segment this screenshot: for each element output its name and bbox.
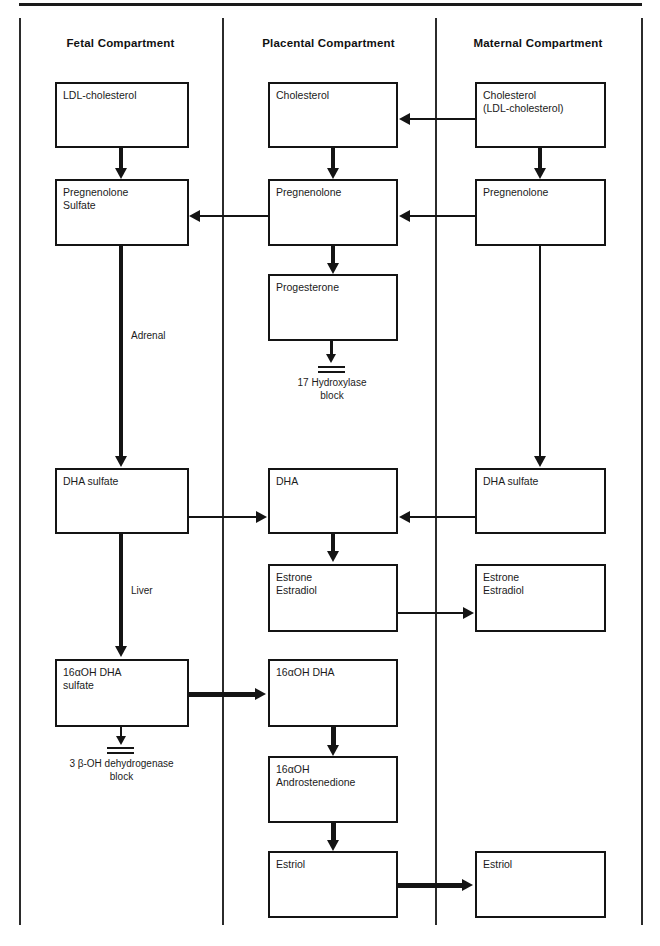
frame-left-border xyxy=(19,18,21,925)
node-placental-progesterone[interactable]: Progesterone xyxy=(268,274,398,341)
arrowhead-maternal-to-placental-dha xyxy=(399,511,410,523)
node-placental-pregnenolone[interactable]: Pregnenolone xyxy=(268,179,398,246)
node-placental-dha[interactable]: DHA xyxy=(268,468,398,534)
arrowhead-fetal-to-placental-dha xyxy=(256,511,267,523)
arrowhead-maternal-to-placental-cholesterol xyxy=(399,113,410,125)
arrowhead-placental-to-fetal-pregnenolone-sulfate xyxy=(189,210,200,222)
edge-label-adrenal: Adrenal xyxy=(131,330,165,341)
block-bar-hydroxylase-upper xyxy=(318,366,345,368)
arrowhead-maternal-to-placental-pregnenolone xyxy=(399,210,410,222)
connector-maternal-to-placental-cholesterol xyxy=(410,118,475,120)
node-placental-16aoh-dha[interactable]: 16αOH DHA xyxy=(268,659,398,727)
arrowhead-maternal-pregnenolone-to-dha-sulfate xyxy=(534,456,546,467)
connector-placental-to-maternal-estrone-estradiol xyxy=(398,612,464,614)
top-rule xyxy=(19,3,642,6)
connector-fetal-to-placental-16aoh-dha xyxy=(189,692,256,697)
arrowhead-placental-16aoh-dha-to-androstenedione xyxy=(327,745,339,756)
edge-label-liver: Liver xyxy=(131,585,153,596)
arrowhead-placental-to-maternal-estriol xyxy=(462,879,473,891)
compartment-divider-placental-maternal xyxy=(435,18,437,925)
arrowhead-placental-androstenedione-to-estriol xyxy=(327,840,339,851)
arrowhead-placental-dha-to-estrone-estradiol xyxy=(327,551,339,562)
arrowhead-placental-hydroxylase-block xyxy=(326,354,336,363)
arrowhead-fetal-dha-sulfate-to-16aoh-dha-sulfate xyxy=(115,646,127,657)
node-maternal-estrone-estradiol[interactable]: Estrone Estradiol xyxy=(475,564,606,632)
connector-fetal-dha-sulfate-to-16aoh-dha-sulfate xyxy=(119,534,123,648)
connector-fetal-to-placental-dha xyxy=(189,516,257,518)
node-maternal-pregnenolone[interactable]: Pregnenolone xyxy=(475,179,606,246)
connector-placental-to-maternal-estriol xyxy=(398,883,463,888)
connector-placental-to-fetal-pregnenolone-sulfate xyxy=(200,215,268,217)
arrowhead-maternal-cholesterol-to-pregnenolone xyxy=(534,168,546,179)
arrowhead-placental-pregnenolone-to-progesterone xyxy=(327,263,339,274)
connector-maternal-to-placental-dha xyxy=(410,516,475,518)
node-fetal-ldl-cholesterol[interactable]: LDL-cholesterol xyxy=(55,82,189,148)
node-fetal-pregnenolone-sulfate[interactable]: Pregnenolone Sulfate xyxy=(55,179,189,246)
arrowhead-fetal-to-placental-16aoh-dha xyxy=(255,688,266,700)
pathway-diagram-page: Fetal Compartment Placental Compartment … xyxy=(0,0,660,946)
arrowhead-fetal-dehydrogenase-block xyxy=(116,736,126,745)
connector-maternal-cholesterol-to-pregnenolone xyxy=(538,148,542,170)
node-placental-cholesterol[interactable]: Cholesterol xyxy=(268,82,398,148)
node-fetal-16aoh-dha-sulfate[interactable]: 16αOH DHA sulfate xyxy=(55,659,189,727)
arrowhead-placental-to-maternal-estrone-estradiol xyxy=(463,607,474,619)
column-header-fetal: Fetal Compartment xyxy=(19,37,222,49)
arrowhead-fetal-pregnenolone-sulfate-to-dha-sulfate xyxy=(115,456,127,467)
block-bar-hydroxylase-lower xyxy=(318,371,345,373)
node-maternal-cholesterol[interactable]: Cholesterol (LDL-cholesterol) xyxy=(475,82,606,148)
connector-fetal-ldl-to-pregnenolone-sulfate xyxy=(119,148,123,170)
arrowhead-fetal-ldl-to-pregnenolone-sulfate xyxy=(115,168,127,179)
node-placental-estriol[interactable]: Estriol xyxy=(268,851,398,918)
block-label-3-beta-oh-dehydrogenase: 3 β-OH dehydrogenase block xyxy=(40,758,203,783)
compartment-divider-fetal-placental xyxy=(222,18,224,925)
node-placental-16aoh-androstenedione[interactable]: 16αOH Androstenedione xyxy=(268,756,398,823)
node-maternal-dha-sulfate[interactable]: DHA sulfate xyxy=(475,468,606,534)
node-maternal-estriol[interactable]: Estriol xyxy=(475,851,606,918)
block-bar-dehydrogenase-upper xyxy=(107,747,134,749)
block-label-17-hydroxylase: 17 Hydroxylase block xyxy=(254,377,410,402)
block-bar-dehydrogenase-lower xyxy=(107,752,134,754)
arrowhead-placental-cholesterol-to-pregnenolone xyxy=(327,168,339,179)
column-header-placental: Placental Compartment xyxy=(222,37,435,49)
connector-placental-cholesterol-to-pregnenolone xyxy=(331,148,335,170)
node-placental-estrone-estradiol[interactable]: Estrone Estradiol xyxy=(268,564,398,632)
connector-fetal-pregnenolone-sulfate-to-dha-sulfate xyxy=(119,246,123,458)
connector-maternal-pregnenolone-to-dha-sulfate xyxy=(539,246,541,458)
connector-maternal-to-placental-pregnenolone xyxy=(410,215,475,217)
column-header-maternal: Maternal Compartment xyxy=(435,37,641,49)
frame-right-border xyxy=(641,18,643,925)
node-fetal-dha-sulfate[interactable]: DHA sulfate xyxy=(55,468,189,534)
